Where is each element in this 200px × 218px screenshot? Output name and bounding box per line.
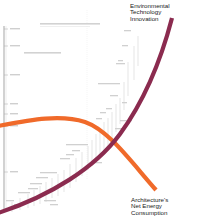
annotation-mid <box>24 52 61 54</box>
legend-tech-innovation: Environmental Technology Innovation <box>130 3 200 22</box>
legend-tech-line1: Environmental Technology <box>130 3 200 16</box>
chart <box>0 0 200 218</box>
milestone-bars <box>12 36 138 212</box>
legend-energy-consumption: Architecture's Net Energy Consumption <box>131 197 200 216</box>
y-tick-labels <box>10 28 20 172</box>
series-tech-innovation <box>0 18 172 213</box>
legend-tech-line2: Innovation <box>130 16 200 22</box>
legend-energy-line2: Net Energy Consumption <box>131 203 200 216</box>
annotation-top <box>40 23 100 27</box>
series-energy-consumption <box>0 118 156 190</box>
